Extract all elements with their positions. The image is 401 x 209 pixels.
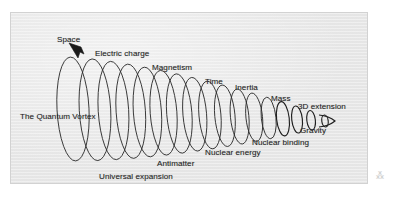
vortex-label-three-d-extension: 3D extension <box>298 102 346 111</box>
vortex-label-quantum-vortex: The Quantum Vortex <box>20 112 96 121</box>
vortex-label-mass: Mass <box>271 94 291 103</box>
space-pointer-arrow-icon <box>69 43 84 58</box>
vortex-label-time: Time <box>205 77 223 86</box>
scanned-page: SpaceElectric chargeMagnetismTimeInertia… <box>0 0 401 209</box>
vortex-loop <box>130 66 164 158</box>
vortex-label-inertia: Inertia <box>235 83 258 92</box>
vortex-loop <box>147 69 180 156</box>
vortex-loop <box>113 63 148 159</box>
vortex-label-nuclear-energy: Nuclear energy <box>205 148 261 157</box>
vortex-label-gravity: Gravity <box>300 126 326 135</box>
vortex-loop <box>275 101 291 137</box>
vortex-loop <box>212 84 238 147</box>
vortex-label-space: Space <box>57 35 80 44</box>
vortex-loop <box>76 58 113 161</box>
vortex-label-antimatter: Antimatter <box>157 159 194 168</box>
vortex-loop <box>244 92 265 142</box>
vortex-label-nuclear-binding: Nuclear binding <box>252 138 309 147</box>
vortex-label-magnetism: Magnetism <box>152 63 192 72</box>
vortex-label-electric-charge: Electric charge <box>95 49 149 58</box>
scan-speck-icon: ⁂ <box>376 172 383 180</box>
figure-panel: SpaceElectric chargeMagnetismTimeInertia… <box>10 12 368 184</box>
vortex-label-universal-expansion: Universal expansion <box>99 172 173 181</box>
vortex-loop <box>196 80 224 150</box>
vortex-loop <box>95 60 131 160</box>
vortex-loop <box>164 73 195 154</box>
